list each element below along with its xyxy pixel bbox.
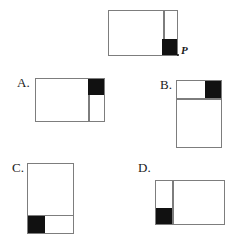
option-label-c: C. [12, 161, 24, 174]
reference-figure-shaded-square [162, 39, 178, 55]
option-label-b: B. [160, 78, 172, 91]
option-d-shaded-square [156, 208, 172, 224]
option-label-a: A. [17, 76, 30, 89]
option-b-horizontal-divider [177, 98, 221, 100]
option-d-vertical-divider [172, 181, 174, 224]
option-a-shaded-square [88, 79, 104, 95]
option-b-shaded-square [205, 81, 221, 98]
point-p-marker [177, 54, 179, 56]
option-figure-c[interactable] [27, 163, 74, 234]
option-label-d: D. [138, 161, 151, 174]
option-figure-d[interactable] [155, 180, 225, 225]
reference-figure [108, 10, 178, 56]
point-p-label: P [181, 45, 188, 56]
option-figure-a[interactable] [35, 78, 105, 122]
option-c-shaded-square [28, 216, 45, 233]
option-figure-b[interactable] [176, 80, 222, 148]
